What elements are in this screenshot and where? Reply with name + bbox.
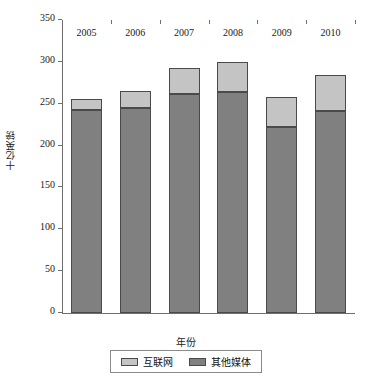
y-tick-label: 300	[40, 54, 55, 65]
bar-segment-other-media[interactable]	[217, 92, 248, 313]
bar-group[interactable]	[71, 99, 102, 313]
y-tick-mark	[58, 145, 62, 146]
x-tick-label: 2005	[76, 27, 96, 38]
bar-segment-other-media[interactable]	[120, 108, 151, 313]
bar-segment-internet[interactable]	[315, 75, 346, 111]
x-tick-mark	[355, 20, 356, 24]
y-tick-mark	[58, 103, 62, 104]
y-axis-title: 十亿英镑	[6, 130, 24, 170]
y-tick-label: 0	[50, 305, 55, 316]
legend-swatch-icon	[121, 358, 138, 366]
legend-swatch-icon	[189, 358, 206, 366]
y-tick-mark	[58, 186, 62, 187]
bar-segment-other-media[interactable]	[315, 111, 346, 313]
y-tick-mark	[58, 228, 62, 229]
x-tick-mark	[111, 20, 112, 24]
y-tick-label: 100	[40, 221, 55, 232]
chart-container: 十亿英镑 05010015020025030035020052006200720…	[0, 0, 372, 380]
bar-group[interactable]	[315, 75, 346, 313]
x-axis-line	[62, 313, 355, 314]
x-tick-mark	[306, 20, 307, 24]
y-tick-mark	[58, 312, 62, 313]
bar-group[interactable]	[266, 97, 297, 313]
y-tick-mark	[58, 61, 62, 62]
y-tick-label: 250	[40, 96, 55, 107]
bar-group[interactable]	[120, 91, 151, 313]
x-tick-label: 2009	[272, 27, 292, 38]
legend-item[interactable]: 互联网	[121, 354, 173, 369]
y-axis-tick: 100	[62, 228, 355, 229]
bar-segment-internet[interactable]	[120, 91, 151, 108]
y-tick-label: 200	[40, 138, 55, 149]
bar-segment-internet[interactable]	[266, 97, 297, 127]
bar-segment-other-media[interactable]	[71, 110, 102, 313]
y-tick-label: 350	[40, 12, 55, 23]
bar-group[interactable]	[217, 62, 248, 313]
legend-label: 互联网	[143, 354, 173, 369]
bar-group[interactable]	[169, 68, 200, 313]
x-tick-mark	[160, 20, 161, 24]
y-tick-mark	[58, 19, 62, 20]
y-axis-tick: 50	[62, 270, 355, 271]
x-axis-title: 年份	[0, 334, 372, 349]
bar-segment-internet[interactable]	[217, 62, 248, 92]
y-axis-tick: 200	[62, 145, 355, 146]
legend-label: 其他媒体	[211, 354, 251, 369]
x-tick-mark	[209, 20, 210, 24]
y-tick-label: 150	[40, 179, 55, 190]
bar-segment-internet[interactable]	[169, 68, 200, 94]
bar-segment-other-media[interactable]	[266, 127, 297, 313]
x-tick-label: 2008	[223, 27, 243, 38]
y-axis-tick: 0	[62, 312, 355, 313]
x-tick-label: 2007	[174, 27, 194, 38]
x-tick-label: 2006	[125, 27, 145, 38]
x-tick-mark	[257, 20, 258, 24]
legend-item[interactable]: 其他媒体	[189, 354, 251, 369]
y-axis-tick: 250	[62, 103, 355, 104]
y-axis-tick: 150	[62, 186, 355, 187]
chart-legend: 互联网其他媒体	[110, 350, 262, 373]
plot-area: 0501001502002503003502005200620072008200…	[62, 20, 355, 313]
y-axis-tick: 300	[62, 61, 355, 62]
bar-segment-internet[interactable]	[71, 99, 102, 111]
x-tick-label: 2010	[321, 27, 341, 38]
y-tick-label: 50	[45, 263, 55, 274]
y-tick-mark	[58, 270, 62, 271]
bar-segment-other-media[interactable]	[169, 94, 200, 313]
